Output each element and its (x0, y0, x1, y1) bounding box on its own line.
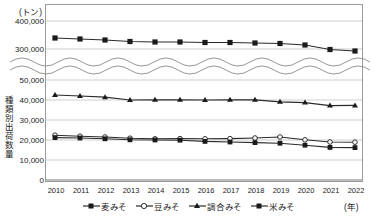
legend-item-chougou-miso[interactable]: 調合みそ (189, 200, 242, 212)
legend-label-mame-miso: 豆みそ (154, 200, 180, 212)
series-kome-miso (52, 35, 357, 53)
plot-area (0, 0, 378, 220)
legend-marker-square-filled-icon (83, 201, 100, 211)
legend-marker-triangle-filled-icon (189, 201, 206, 211)
legend-label-chougou-miso: 調合みそ (207, 200, 242, 212)
legend-label-kome-miso: 米みそ (269, 200, 295, 212)
legend-item-mame-miso[interactable]: 豆みそ (136, 200, 180, 212)
chart-legend: 麦みそ 豆みそ 調合みそ 米みそ (0, 200, 378, 212)
axis-break-wave (10, 58, 370, 74)
legend-item-mugi-miso[interactable]: 麦みそ (83, 200, 127, 212)
legend-label-mugi-miso: 麦みそ (101, 200, 127, 212)
legend-marker-square-filled-2-icon (251, 201, 268, 211)
legend-item-kome-miso[interactable]: 米みそ (251, 200, 295, 212)
legend-marker-circle-open-icon (136, 201, 153, 211)
miso-shipment-chart: (トン) 種類別出荷数量 (年) 400,000 300,000 50,000 … (0, 0, 378, 220)
